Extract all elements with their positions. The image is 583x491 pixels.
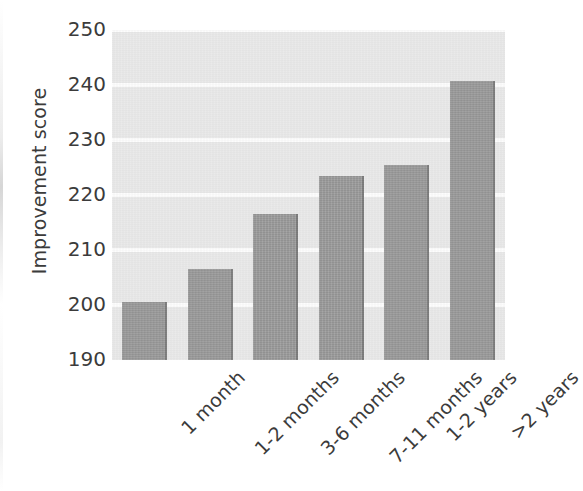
y-axis-tick-label: 210 [60, 239, 106, 259]
x-axis-tick-label: 1 month [176, 366, 248, 438]
bar [253, 214, 298, 360]
bar [319, 176, 364, 360]
y-axis-tick-label: 200 [60, 294, 106, 314]
y-axis-title: Improvement score [28, 21, 50, 341]
y-axis-tick-label: 230 [60, 129, 106, 149]
x-axis-tick-labels: 1 month1-2 months3-6 months7-11 months1-… [112, 360, 505, 491]
y-axis-tick-label: 240 [60, 74, 106, 94]
plot-area [112, 30, 505, 360]
bar [188, 269, 233, 360]
gridline [112, 30, 505, 32]
gridline [112, 193, 505, 197]
gridline [112, 248, 505, 252]
y-axis-tick-labels: 190200210220230240250 [52, 0, 106, 491]
bar [122, 302, 167, 360]
y-axis-tick-label: 250 [60, 19, 106, 39]
y-axis-tick-label: 190 [60, 349, 106, 369]
gridline [112, 83, 505, 87]
bar [384, 165, 429, 360]
gridline [112, 303, 505, 307]
bar [450, 81, 495, 360]
y-axis-tick-label: 220 [60, 184, 106, 204]
scan-edge-artifact [0, 0, 3, 491]
gridline [112, 138, 505, 142]
